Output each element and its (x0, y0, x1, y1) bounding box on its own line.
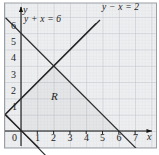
region-label-R: R (51, 90, 58, 102)
y-tick-label-6: 6 (11, 20, 16, 31)
x-tick-label-6: 6 (117, 132, 122, 143)
y-tick-label-2: 2 (11, 85, 16, 96)
x-tick-label-4: 4 (84, 132, 89, 143)
equation-label-line2: y − x = 2 (102, 2, 139, 12)
x-axis-name: x (147, 131, 151, 142)
y-tick-label-5: 5 (11, 36, 16, 47)
graph-figure: 6 5 4 3 2 1 0 1 2 3 4 5 6 7 y x y + x = … (0, 0, 159, 155)
y-tick-label-4: 4 (11, 52, 16, 63)
x-tick-label-5: 5 (100, 132, 105, 143)
x-tick-label-2: 2 (51, 132, 56, 143)
x-tick-label-1: 1 (35, 132, 40, 143)
x-tick-label-7: 7 (133, 132, 138, 143)
y-tick-label-3: 3 (11, 69, 16, 80)
x-tick-label-3: 3 (68, 132, 73, 143)
x-tick-label-0: 0 (12, 132, 17, 143)
equation-label-line1: y + x = 6 (24, 14, 61, 24)
y-tick-label-1: 1 (12, 101, 17, 112)
